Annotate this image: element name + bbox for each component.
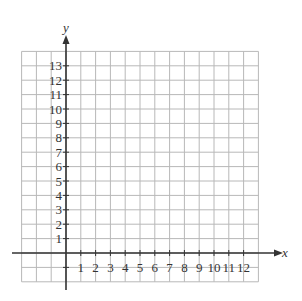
x-tick-label: 12: [237, 260, 250, 275]
y-tick-label: 5: [56, 174, 63, 189]
y-tick-label: 7: [56, 145, 63, 160]
x-tick-label: 3: [107, 260, 114, 275]
x-tick-label: 10: [208, 260, 221, 275]
x-tick-label: 11: [223, 260, 236, 275]
x-tick-label: 8: [181, 260, 188, 275]
x-tick-label: 5: [137, 260, 144, 275]
x-tick-label: 4: [122, 260, 129, 275]
y-tick-label: 10: [49, 102, 62, 117]
y-tick-label: 4: [56, 188, 63, 203]
y-tick-label: 12: [49, 73, 62, 88]
coordinate-grid: 12345678910111212345678910111213 x y: [0, 0, 302, 301]
y-tick-label: 3: [56, 202, 63, 217]
y-axis-arrow-icon: [63, 35, 70, 44]
y-tick-label: 1: [56, 231, 63, 246]
y-tick-label: 13: [49, 58, 62, 73]
x-axis-label: x: [281, 245, 288, 260]
x-tick-label: 2: [92, 260, 99, 275]
y-tick-label: 2: [56, 217, 63, 232]
y-tick-label: 6: [56, 159, 63, 174]
x-tick-label: 1: [78, 260, 85, 275]
y-tick-label: 8: [56, 130, 63, 145]
x-tick-label: 7: [166, 260, 173, 275]
y-tick-label: 9: [56, 116, 63, 131]
x-tick-label: 6: [152, 260, 159, 275]
y-axis-label: y: [61, 20, 69, 35]
x-tick-label: 9: [196, 260, 203, 275]
y-tick-label: 11: [49, 87, 62, 102]
